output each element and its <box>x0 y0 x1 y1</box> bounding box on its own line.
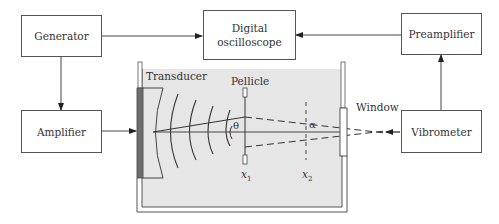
oscilloscope-label-line2: oscilloscope <box>217 35 282 49</box>
alpha-label: α <box>309 119 316 130</box>
preamplifier-label: Preamplifier <box>408 27 474 41</box>
vibrometer-block: Vibrometer <box>401 110 482 153</box>
x2-label: x2 <box>302 168 312 183</box>
oscilloscope-block: Digital oscilloscope <box>203 10 296 60</box>
pellicle-label: Pellicle <box>231 75 269 87</box>
amplifier-block: Amplifier <box>21 110 102 153</box>
water-tank <box>137 69 347 212</box>
preamplifier-block: Preamplifier <box>401 13 482 55</box>
theta-label: θ <box>233 120 239 131</box>
transducer-label: Transducer <box>146 70 207 82</box>
window <box>340 62 347 156</box>
generator-block: Generator <box>21 15 102 57</box>
oscilloscope-label-line1: Digital <box>232 21 268 35</box>
generator-label: Generator <box>34 29 88 43</box>
amplifier-label: Amplifier <box>37 125 86 139</box>
vibrometer-label: Vibrometer <box>411 125 471 139</box>
window-label: Window <box>356 101 399 113</box>
x1-label: x1 <box>241 168 251 183</box>
